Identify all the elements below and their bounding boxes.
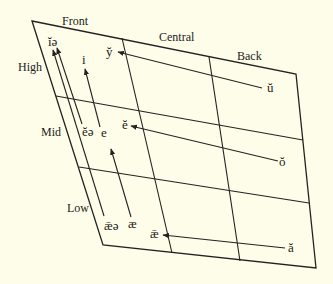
vowel-aee: ǣə [104, 218, 119, 233]
vowel-e2: ĕ [122, 117, 128, 132]
vowel-ae: æ [128, 216, 137, 231]
label-front: Front [62, 14, 89, 28]
label-low: Low [67, 201, 89, 215]
vowel-trapezoid [32, 21, 316, 268]
label-central: Central [159, 30, 195, 44]
arrow-a-to-ae [163, 235, 285, 248]
arrow-e-to-i [85, 69, 100, 127]
label-mid: Mid [41, 125, 61, 139]
mid-low-divider [79, 167, 309, 203]
vowel-i: i [82, 52, 86, 67]
vowel-u: ŭ [267, 80, 274, 95]
label-back: Back [237, 49, 262, 63]
vowel-e: e [101, 125, 107, 140]
vowel-y: y̆ [106, 44, 113, 59]
vowel-a: ă [288, 240, 294, 255]
arrow-ae-to-e [111, 149, 131, 217]
vowel-ae2: ǣ [150, 226, 159, 241]
central-back-divider [209, 57, 240, 261]
vowel-o: ŏ [279, 154, 286, 169]
vowel-chart: Front Central Back High Mid Low ĭə y̆ i … [0, 0, 333, 284]
vowel-ie: ĭə [48, 34, 58, 49]
vowel-ee: ĕə [82, 124, 94, 139]
label-high: High [18, 60, 42, 74]
